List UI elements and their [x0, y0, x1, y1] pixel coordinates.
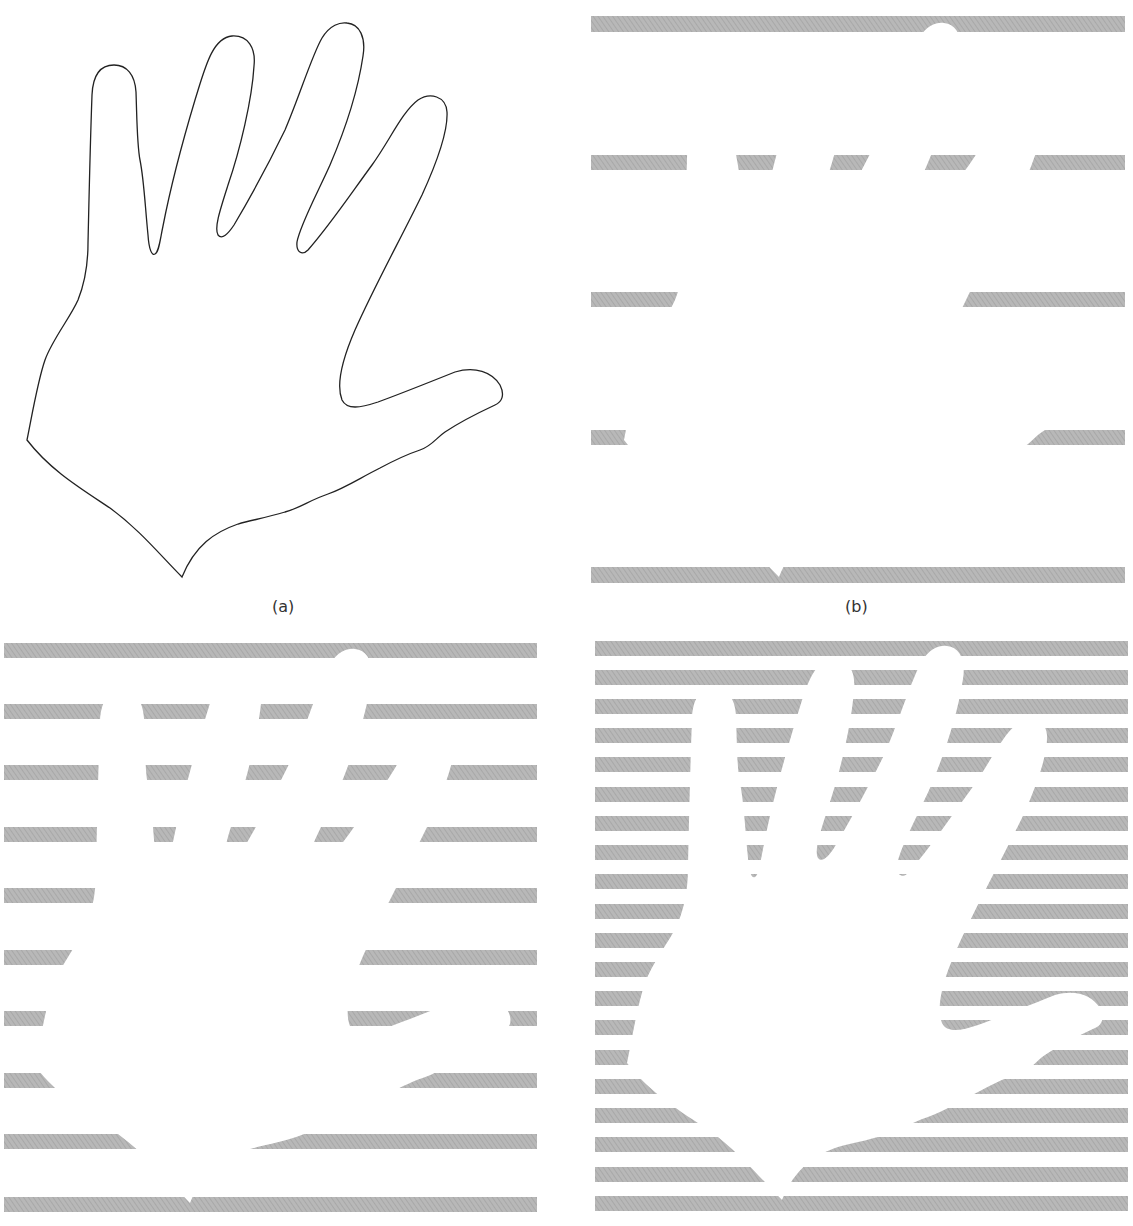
panel-a: (a): [27, 23, 502, 616]
panel-b: (b): [591, 16, 1125, 616]
panel-d: [595, 641, 1128, 1211]
hand-silhouette: [35, 649, 510, 1203]
panel-b-label: (b): [845, 597, 868, 616]
panel-c: [4, 643, 537, 1212]
panel-a-label: (a): [272, 597, 294, 616]
hand-stripe-figure: (a) (b): [0, 0, 1133, 1226]
hand-outline: [27, 23, 502, 577]
